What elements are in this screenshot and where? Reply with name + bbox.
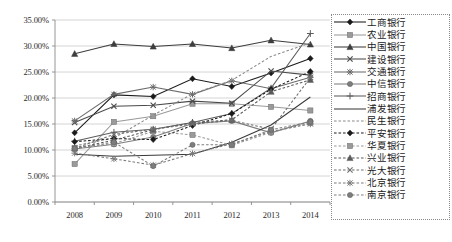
x-axis-tick-label: 2012 bbox=[223, 210, 240, 220]
legend-marker-triangle-icon bbox=[333, 41, 367, 53]
y-axis-tick-label: 20.00% bbox=[23, 93, 49, 103]
marker-square bbox=[347, 143, 352, 148]
marker-circle bbox=[347, 192, 352, 197]
legend-item[interactable]: 平安银行 bbox=[333, 127, 449, 139]
legend-item[interactable]: 民生银行 bbox=[333, 115, 449, 127]
legend-marker-none-icon bbox=[333, 115, 367, 127]
y-axis-tick-label: 35.00% bbox=[23, 15, 49, 25]
legend-label: 招商银行 bbox=[367, 91, 406, 102]
legend-item[interactable]: 建设银行 bbox=[333, 53, 449, 65]
chart-root: 0.00%5.00%10.00%15.00%20.00%25.00%30.00%… bbox=[0, 0, 452, 242]
legend-label: 北京银行 bbox=[367, 177, 406, 188]
x-axis-tick-label: 2014 bbox=[302, 210, 319, 220]
legend-item[interactable]: 兴业银行 bbox=[333, 152, 449, 164]
legend-item[interactable]: 交通银行 bbox=[333, 65, 449, 77]
legend-marker-diamond-icon bbox=[333, 127, 367, 139]
marker-square bbox=[268, 104, 273, 109]
legend-marker-asterisk-icon bbox=[333, 66, 367, 78]
marker-square bbox=[190, 101, 195, 106]
y-axis-tick-label: 5.00% bbox=[28, 171, 49, 181]
marker-square bbox=[347, 32, 352, 37]
legend-item[interactable]: 浦发银行 bbox=[333, 102, 449, 114]
legend-marker-none-icon bbox=[333, 103, 367, 115]
y-axis-tick-label: 15.00% bbox=[23, 119, 49, 129]
y-axis-tick-label: 25.00% bbox=[23, 67, 49, 77]
legend-label: 中信银行 bbox=[367, 78, 406, 89]
marker-square bbox=[72, 161, 77, 166]
legend-label: 浦发银行 bbox=[367, 103, 406, 114]
legend-label: 中国银行 bbox=[367, 41, 406, 52]
marker-circle bbox=[72, 146, 77, 151]
legend-marker-square-icon bbox=[333, 29, 367, 41]
marker-plus bbox=[347, 93, 354, 100]
marker-asterisk bbox=[347, 179, 353, 185]
legend-marker-x-icon bbox=[333, 164, 367, 176]
legend-item[interactable]: 工商银行 bbox=[333, 16, 449, 28]
marker-square bbox=[190, 132, 195, 137]
legend-marker-circle-icon bbox=[333, 78, 367, 90]
x-axis-tick-label: 2009 bbox=[106, 210, 123, 220]
marker-circle bbox=[151, 164, 156, 169]
y-axis-tick-label: 30.00% bbox=[23, 41, 49, 51]
legend-marker-diamond-icon bbox=[333, 16, 367, 28]
legend-label: 建设银行 bbox=[367, 54, 406, 65]
x-axis-tick-label: 2013 bbox=[263, 210, 280, 220]
chart-legend: 工商银行农业银行中国银行建设银行交通银行中信银行招商银行浦发银行民生银行平安银行… bbox=[331, 14, 450, 220]
legend-label: 民生银行 bbox=[367, 115, 406, 126]
marker-square bbox=[111, 119, 116, 124]
x-axis-tick-label: 2008 bbox=[66, 210, 83, 220]
x-axis-tick-label: 2010 bbox=[145, 210, 162, 220]
x-axis-tick-label: 2011 bbox=[184, 210, 200, 220]
legend-label: 光大银行 bbox=[367, 165, 406, 176]
marker-asterisk bbox=[150, 84, 156, 90]
y-axis-tick-label: 10.00% bbox=[23, 145, 49, 155]
line-chart: 0.00%5.00%10.00%15.00%20.00%25.00%30.00%… bbox=[0, 0, 452, 242]
legend-label: 华夏银行 bbox=[367, 140, 406, 151]
marker-asterisk bbox=[347, 68, 353, 74]
marker-diamond bbox=[347, 19, 353, 25]
legend-item[interactable]: 南京银行 bbox=[333, 189, 449, 201]
marker-circle bbox=[229, 142, 234, 147]
legend-item[interactable]: 光大银行 bbox=[333, 164, 449, 176]
marker-asterisk bbox=[111, 156, 117, 162]
legend-label: 工商银行 bbox=[367, 17, 406, 28]
legend-marker-square-icon bbox=[333, 140, 367, 152]
legend-item[interactable]: 招商银行 bbox=[333, 90, 449, 102]
legend-marker-circle-icon bbox=[333, 189, 367, 201]
y-axis-labels: 0.00%5.00%10.00%15.00%20.00%25.00%30.00%… bbox=[0, 0, 52, 242]
marker-circle bbox=[268, 127, 273, 132]
plot-background bbox=[55, 20, 330, 202]
legend-marker-asterisk-icon bbox=[333, 177, 367, 189]
legend-label: 南京银行 bbox=[367, 189, 406, 200]
marker-asterisk bbox=[71, 118, 77, 124]
marker-asterisk bbox=[189, 91, 195, 97]
marker-circle bbox=[190, 142, 195, 147]
marker-circle bbox=[111, 140, 116, 145]
legend-item[interactable]: 华夏银行 bbox=[333, 139, 449, 151]
marker-circle bbox=[347, 81, 352, 86]
marker-square bbox=[308, 108, 313, 113]
legend-marker-triangle-icon bbox=[333, 152, 367, 164]
legend-item[interactable]: 北京银行 bbox=[333, 176, 449, 188]
legend-item[interactable]: 中国银行 bbox=[333, 41, 449, 53]
marker-circle bbox=[308, 119, 313, 124]
marker-diamond bbox=[347, 130, 353, 136]
legend-item[interactable]: 农业银行 bbox=[333, 28, 449, 40]
marker-asterisk bbox=[111, 91, 117, 97]
legend-label: 兴业银行 bbox=[367, 152, 406, 163]
legend-marker-plus-icon bbox=[333, 90, 367, 102]
legend-marker-x-icon bbox=[333, 53, 367, 65]
y-axis-tick-label: 0.00% bbox=[28, 197, 49, 207]
legend-label: 交通银行 bbox=[367, 66, 406, 77]
legend-item[interactable]: 中信银行 bbox=[333, 78, 449, 90]
marker-asterisk bbox=[189, 150, 195, 156]
legend-label: 平安银行 bbox=[367, 128, 406, 139]
legend-label: 农业银行 bbox=[367, 29, 406, 40]
